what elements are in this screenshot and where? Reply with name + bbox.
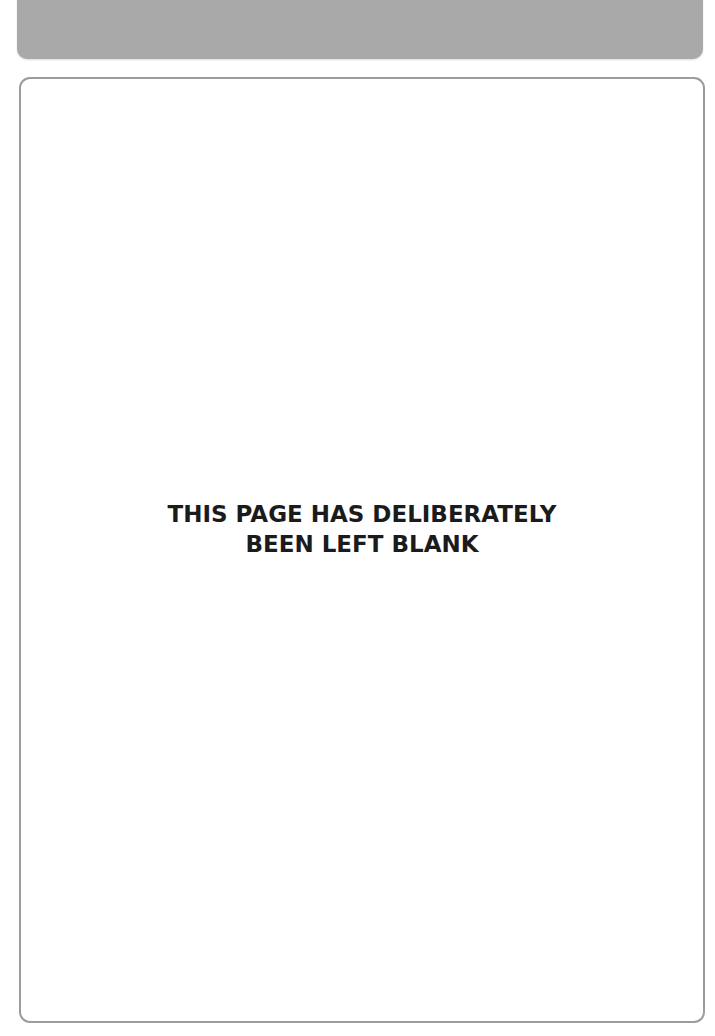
header-band <box>17 0 703 59</box>
notice-line-1: THIS PAGE HAS DELIBERATELY <box>21 499 703 529</box>
notice-line-2: BEEN LEFT BLANK <box>21 529 703 559</box>
page-frame: THIS PAGE HAS DELIBERATELY BEEN LEFT BLA… <box>19 77 705 1023</box>
blank-page-notice: THIS PAGE HAS DELIBERATELY BEEN LEFT BLA… <box>21 499 703 559</box>
